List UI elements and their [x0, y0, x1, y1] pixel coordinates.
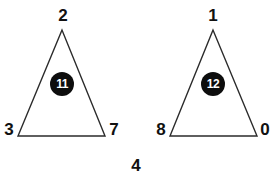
- right-triangle-bottom-right-label: 0: [258, 121, 272, 138]
- left-triangle-bottom-left-label: 3: [2, 121, 16, 138]
- bottom-center-label: 4: [128, 157, 144, 174]
- right-triangle-apex-label: 1: [205, 7, 221, 24]
- right-triangle-bottom-left-label: 8: [154, 121, 168, 138]
- diagram-canvas: 2 3 7 11 1 8 0 12 4: [0, 0, 272, 178]
- left-triangle-badge: 11: [50, 72, 74, 96]
- right-triangle-badge: 12: [201, 72, 225, 96]
- left-triangle-bottom-right-label: 7: [107, 121, 121, 138]
- left-triangle-apex-label: 2: [54, 7, 72, 24]
- triangles-svg: [0, 0, 272, 178]
